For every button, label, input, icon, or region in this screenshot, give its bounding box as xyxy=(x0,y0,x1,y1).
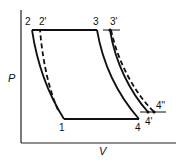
label-point-3: 3 xyxy=(93,16,99,27)
label-point-3prime: 3' xyxy=(110,16,118,27)
solid-cycle xyxy=(32,30,148,119)
x-axis-label: V xyxy=(99,145,108,157)
marker-3prime xyxy=(108,28,111,31)
label-point-2: 2 xyxy=(25,16,31,27)
expansion-curve-3-4 xyxy=(97,30,139,119)
compression-curve-1-2 xyxy=(32,30,64,119)
expansion-curve-3prime-4doubleprime xyxy=(111,30,154,112)
marker-4prime xyxy=(146,110,149,113)
dashed-paths xyxy=(40,30,154,112)
y-axis-label: P xyxy=(8,72,16,84)
label-point-4doubleprime: 4" xyxy=(156,100,166,111)
compression-curve-1-2prime xyxy=(40,30,58,110)
pv-diagram: 2 2' 3 3' 1 4 4' 4" P V xyxy=(0,0,182,162)
point-markers xyxy=(108,28,155,113)
label-point-4prime: 4' xyxy=(145,116,153,127)
label-point-1: 1 xyxy=(59,122,65,133)
label-point-2prime: 2' xyxy=(39,16,47,27)
label-point-4: 4 xyxy=(135,122,141,133)
